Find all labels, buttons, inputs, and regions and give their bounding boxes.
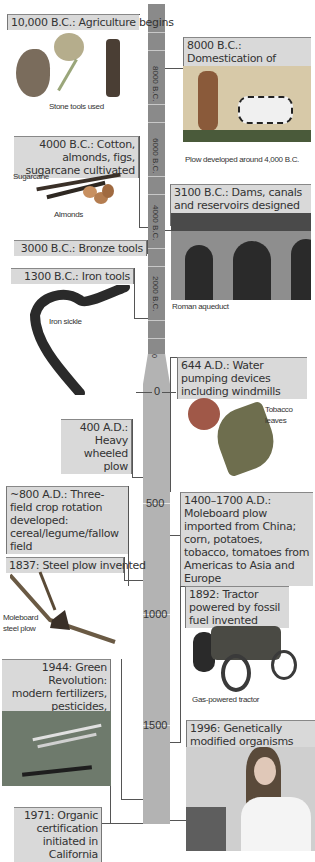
event-iron-tools: 1300 B.C.: Iron tools bbox=[11, 268, 134, 284]
event-heavy-wheeled-plow: 400 A.D.: Heavy wheeled plow bbox=[61, 419, 132, 474]
caption-tobacco-leaves: Tobacco leaves bbox=[265, 404, 300, 426]
caption-almonds: Almonds bbox=[54, 210, 83, 219]
timeline-label-0bc: 0 bbox=[151, 354, 158, 358]
stone-tools-image bbox=[16, 33, 126, 97]
event-moleboard-plow-imported: 1400–1700 A.D.: Moleboard plow imported … bbox=[180, 492, 313, 586]
timeline-label-8000bc: 8000 B.C. bbox=[151, 66, 160, 102]
caption-steel-plow: Moleboard steel plow bbox=[3, 612, 41, 634]
timeline-taper bbox=[143, 354, 170, 384]
event-bronze-tools: 3000 B.C.: Bronze tools bbox=[14, 240, 147, 256]
timeline-label-0ad: 0 bbox=[152, 385, 162, 397]
timeline-label-1000: 1000 bbox=[143, 608, 167, 620]
connector-agriculture bbox=[139, 14, 140, 15]
scientist-image bbox=[186, 747, 315, 851]
event-agriculture-begins: 10,000 B.C.: Agriculture begins bbox=[7, 14, 139, 30]
timeline-label-1500: 1500 bbox=[143, 719, 167, 731]
connector-cattle bbox=[165, 68, 183, 69]
caption-plow-developed: Plow developed around 4,000 B.C. bbox=[185, 155, 299, 164]
iron-sickle-image bbox=[25, 285, 135, 395]
timeline-label-4000bc: 4000 B.C. bbox=[151, 205, 160, 241]
timeline-label-6000bc: 6000 B.C. bbox=[151, 138, 160, 174]
tractor-image bbox=[193, 622, 298, 692]
caption-iron-sickle: Iron sickle bbox=[49, 317, 82, 326]
event-organic-certification: 1971: Organic certification initiated in… bbox=[14, 807, 102, 862]
event-three-field-rotation: ~800 A.D.: Three-field crop rotation dev… bbox=[6, 486, 128, 554]
timeline-bar-ad bbox=[143, 384, 170, 824]
timeline-label-500: 500 bbox=[146, 497, 164, 509]
caption-roman-aqueduct: Roman aqueduct bbox=[172, 302, 229, 311]
crop-duster-image bbox=[2, 711, 111, 786]
caption-stone-tools: Stone tools used bbox=[49, 102, 104, 111]
timeline-label-2000bc: 2000 B.C. bbox=[151, 276, 160, 312]
sugarcane-almonds-image bbox=[36, 170, 126, 210]
egyptian-plow-image bbox=[183, 66, 311, 142]
event-water-pumping: 644 A.D.: Water pumping devices includin… bbox=[177, 357, 307, 399]
caption-gas-powered-tractor: Gas-powered tractor bbox=[192, 695, 259, 704]
roman-aqueduct-image bbox=[171, 213, 311, 300]
